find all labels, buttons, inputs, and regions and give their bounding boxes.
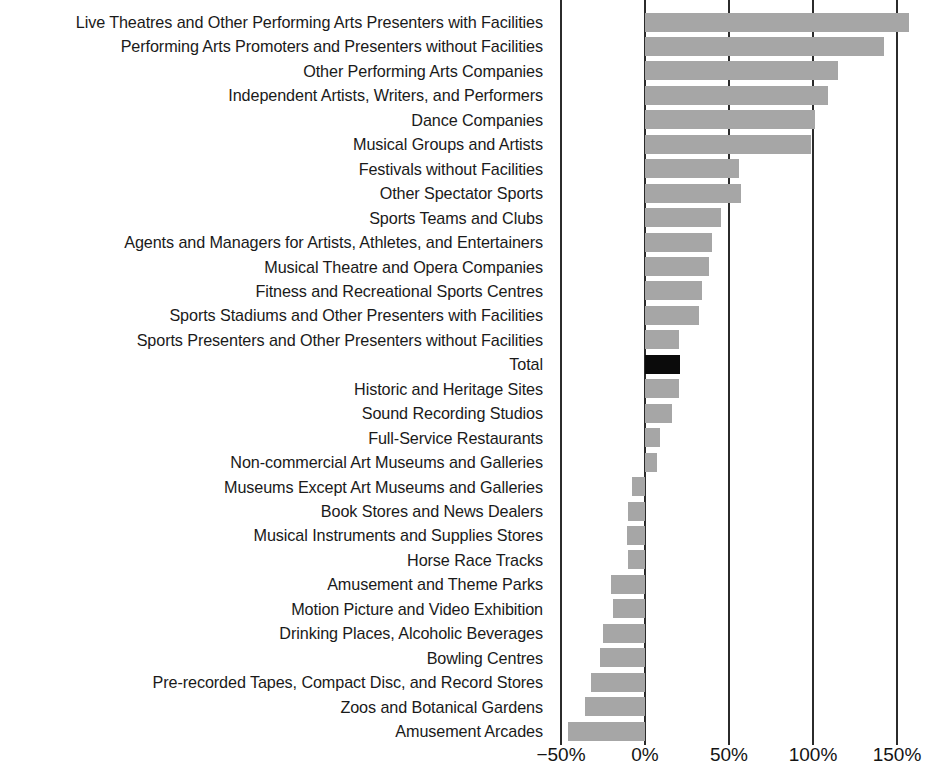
category-label: Drinking Places, Alcoholic Beverages <box>0 624 543 643</box>
plot-area <box>561 0 909 737</box>
category-label: Festivals without Facilities <box>0 160 543 179</box>
bar <box>645 257 709 276</box>
bar <box>645 159 739 178</box>
bar <box>645 306 699 325</box>
bar <box>645 135 811 154</box>
category-label: Live Theatres and Other Performing Arts … <box>0 13 543 32</box>
bar <box>591 673 645 692</box>
bar <box>585 697 645 716</box>
category-label: Performing Arts Promoters and Presenters… <box>0 37 543 56</box>
x-tick-label: −50% <box>536 742 585 768</box>
category-label: Amusement and Theme Parks <box>0 575 543 594</box>
x-tick-label: 50% <box>710 742 748 768</box>
category-label: Full-Service Restaurants <box>0 429 543 448</box>
category-label: Sports Presenters and Other Presenters w… <box>0 331 543 350</box>
bar <box>645 281 702 300</box>
category-label: Bowling Centres <box>0 649 543 668</box>
bar <box>645 110 815 129</box>
category-label: Motion Picture and Video Exhibition <box>0 600 543 619</box>
category-label: Other Spectator Sports <box>0 184 543 203</box>
bar <box>628 550 645 569</box>
category-label: Musical Theatre and Opera Companies <box>0 258 543 277</box>
bar <box>645 86 828 105</box>
category-label: Historic and Heritage Sites <box>0 380 543 399</box>
bar <box>645 355 680 374</box>
bar <box>645 428 660 447</box>
bar <box>645 61 838 80</box>
gridline-neg50 <box>560 0 562 745</box>
category-label: Other Performing Arts Companies <box>0 62 543 81</box>
category-label: Non-commercial Art Museums and Galleries <box>0 453 543 472</box>
category-label: Book Stores and News Dealers <box>0 502 543 521</box>
category-label: Dance Companies <box>0 111 543 130</box>
category-label: Amusement Arcades <box>0 722 543 741</box>
category-label: Fitness and Recreational Sports Centres <box>0 282 543 301</box>
x-tick-label: 150% <box>873 742 922 768</box>
x-tick-label: 0% <box>631 742 658 768</box>
bar <box>627 526 645 545</box>
category-label: Pre-recorded Tapes, Compact Disc, and Re… <box>0 673 543 692</box>
bar <box>600 648 645 667</box>
gridline-150 <box>896 0 898 745</box>
category-label: Independent Artists, Writers, and Perfor… <box>0 86 543 105</box>
category-label: Musical Instruments and Supplies Stores <box>0 526 543 545</box>
x-tick-label: 100% <box>789 742 838 768</box>
bar <box>568 722 645 741</box>
bar <box>632 477 645 496</box>
bar <box>645 233 712 252</box>
bar <box>645 404 672 423</box>
category-label: Zoos and Botanical Gardens <box>0 698 543 717</box>
category-label: Sound Recording Studios <box>0 404 543 423</box>
bar <box>613 599 645 618</box>
bar <box>645 330 679 349</box>
category-label: Agents and Managers for Artists, Athlete… <box>0 233 543 252</box>
bar <box>645 208 721 227</box>
bar <box>645 379 679 398</box>
bar <box>645 37 884 56</box>
category-label-column: Live Theatres and Other Performing Arts … <box>0 0 545 737</box>
category-label: Horse Race Tracks <box>0 551 543 570</box>
bar <box>603 624 645 643</box>
bar <box>628 502 645 521</box>
bar <box>645 453 657 472</box>
category-label: Museums Except Art Museums and Galleries <box>0 478 543 497</box>
bar <box>611 575 645 594</box>
bar <box>645 184 741 203</box>
x-axis-tick-labels: −50%0%50%100%150% <box>0 742 931 771</box>
category-label: Musical Groups and Artists <box>0 135 543 154</box>
category-label: Sports Stadiums and Other Presenters wit… <box>0 306 543 325</box>
bar-chart: Live Theatres and Other Performing Arts … <box>0 0 931 771</box>
bar <box>645 13 909 32</box>
category-label: Total <box>0 355 543 374</box>
category-label: Sports Teams and Clubs <box>0 209 543 228</box>
